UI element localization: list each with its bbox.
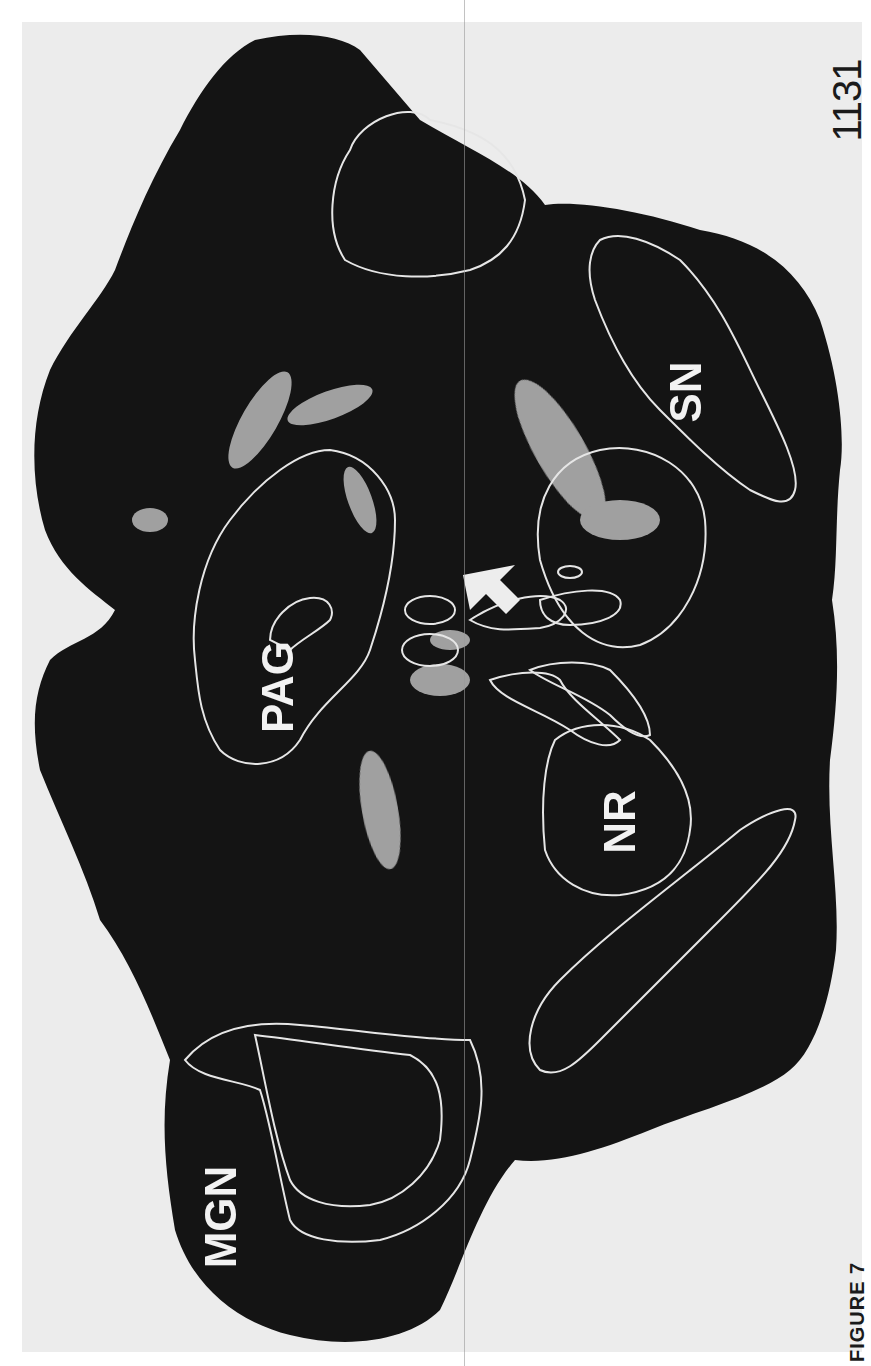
page-number-text: 1131 (825, 59, 870, 141)
figure-caption: FIGURE 7 (845, 1230, 871, 1366)
region-label-nr: NR (598, 790, 642, 854)
page-number: 1131 (832, 60, 862, 140)
region-label-pag: PAG (256, 641, 300, 733)
region-label-mgn: MGN (199, 1166, 243, 1269)
brain-section-micrograph (0, 0, 871, 1366)
figure-caption-text: FIGURE 7 (846, 1262, 869, 1362)
scan-fold-line (464, 0, 465, 1366)
region-label-sn: SN (664, 361, 708, 422)
